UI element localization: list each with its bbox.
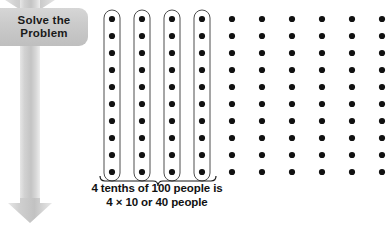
person-dot <box>199 135 205 141</box>
person-dot <box>349 152 355 158</box>
person-dot <box>229 33 235 39</box>
person-dot <box>349 33 355 39</box>
person-dot <box>349 169 355 175</box>
person-dot <box>199 152 205 158</box>
person-dot <box>289 50 295 56</box>
person-dot <box>289 135 295 141</box>
person-dot <box>349 101 355 107</box>
person-dot <box>349 135 355 141</box>
person-dot <box>319 16 325 22</box>
person-dot <box>319 118 325 124</box>
person-dot <box>259 33 265 39</box>
person-dot <box>199 67 205 73</box>
person-dot <box>349 118 355 124</box>
person-dot <box>139 118 145 124</box>
person-dot <box>259 101 265 107</box>
person-dot <box>319 33 325 39</box>
person-dot <box>379 118 385 124</box>
person-dot <box>109 169 115 175</box>
person-dot <box>379 16 385 22</box>
person-dot <box>139 152 145 158</box>
person-dot <box>199 33 205 39</box>
person-dot <box>169 67 175 73</box>
person-dot <box>199 50 205 56</box>
person-dot <box>109 101 115 107</box>
person-dot <box>229 84 235 90</box>
person-dot <box>229 118 235 124</box>
person-dot <box>139 135 145 141</box>
person-dot <box>109 16 115 22</box>
person-dot <box>139 101 145 107</box>
person-dot <box>319 169 325 175</box>
person-dot <box>349 67 355 73</box>
person-dot <box>139 16 145 22</box>
person-dot <box>229 67 235 73</box>
person-dot <box>259 135 265 141</box>
person-dot <box>259 169 265 175</box>
person-dot <box>319 84 325 90</box>
person-dot <box>259 84 265 90</box>
person-dot <box>259 50 265 56</box>
caption-line-1: 4 tenths of 100 people is <box>78 181 236 195</box>
person-dot <box>199 101 205 107</box>
person-dot <box>139 84 145 90</box>
person-dot <box>289 169 295 175</box>
person-dot <box>349 50 355 56</box>
person-dot <box>169 101 175 107</box>
person-dot <box>169 118 175 124</box>
person-dot <box>139 33 145 39</box>
person-dot <box>109 84 115 90</box>
person-dot <box>379 135 385 141</box>
person-dot <box>229 169 235 175</box>
person-dot <box>229 16 235 22</box>
person-dot <box>139 169 145 175</box>
person-dot <box>319 135 325 141</box>
person-dot <box>169 33 175 39</box>
person-dot <box>379 169 385 175</box>
person-dot <box>349 84 355 90</box>
person-dot <box>319 152 325 158</box>
person-dot <box>169 50 175 56</box>
person-dot <box>169 152 175 158</box>
person-dot <box>289 84 295 90</box>
person-dot <box>139 50 145 56</box>
person-dot <box>259 118 265 124</box>
person-dot <box>379 84 385 90</box>
person-dot <box>169 169 175 175</box>
person-dot <box>139 67 145 73</box>
person-dot <box>229 135 235 141</box>
person-dot <box>259 16 265 22</box>
person-dot <box>379 50 385 56</box>
person-dot <box>199 118 205 124</box>
person-dot <box>169 84 175 90</box>
person-dot <box>289 152 295 158</box>
person-dot <box>109 67 115 73</box>
person-dot <box>289 16 295 22</box>
person-dot <box>379 152 385 158</box>
person-dot <box>379 33 385 39</box>
person-dot <box>379 101 385 107</box>
person-dot <box>289 101 295 107</box>
person-dot <box>349 16 355 22</box>
caption-line-2: 4 × 10 or 40 people <box>78 195 236 209</box>
person-dot <box>289 67 295 73</box>
person-dot <box>379 67 385 73</box>
person-dot <box>109 118 115 124</box>
person-dot <box>109 152 115 158</box>
person-dot <box>289 118 295 124</box>
person-dot <box>169 16 175 22</box>
person-dot <box>109 33 115 39</box>
person-dot <box>109 50 115 56</box>
caption: 4 tenths of 100 people is 4 × 10 or 40 p… <box>78 181 236 209</box>
person-dot <box>319 67 325 73</box>
person-dot <box>229 50 235 56</box>
person-dot <box>319 50 325 56</box>
person-dot <box>169 135 175 141</box>
person-dot <box>199 169 205 175</box>
person-dot <box>199 16 205 22</box>
person-dot <box>259 67 265 73</box>
person-dot <box>259 152 265 158</box>
worksheet-illustration: Solve the Problem 4 tenths of 100 people… <box>0 0 387 233</box>
person-dot <box>319 101 325 107</box>
person-dot <box>199 84 205 90</box>
